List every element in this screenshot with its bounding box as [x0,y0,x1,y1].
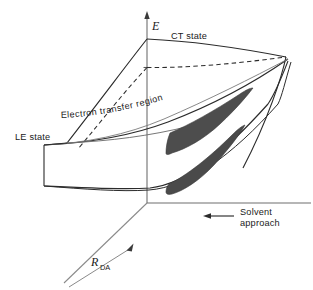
distance-axis-label-subscript: DA [100,263,110,272]
solvent-approach-label-line2: approach [240,218,280,228]
energy-axis-label: E [151,19,160,33]
ct-surface-right-edge [243,57,286,168]
potential-energy-surface-figure: E CT state LE state Electron transfer re… [0,0,313,290]
distance-axis-label: R [90,255,99,269]
energy-axis-arrowhead [144,11,149,19]
figure-canvas: E CT state LE state Electron transfer re… [0,0,313,290]
ct-surface-back-edge [147,39,286,57]
axes-group [64,11,311,287]
le-state-label: LE state [15,132,50,142]
ct-state-label: CT state [171,31,207,41]
electron-transfer-region-label: Electron transfer region [61,92,165,120]
lower-surface-right-edge-2 [278,62,291,104]
distance-axis-arrowhead [127,244,134,252]
ct-surface-dashed-fold [147,57,286,68]
solvent-approach-arrow [203,213,234,219]
solvent-arrow-head [203,213,211,219]
distance-axis [64,203,147,287]
ct-surface-left-edge [67,39,147,143]
solvent-approach-label-line1: Solvent [240,207,272,217]
